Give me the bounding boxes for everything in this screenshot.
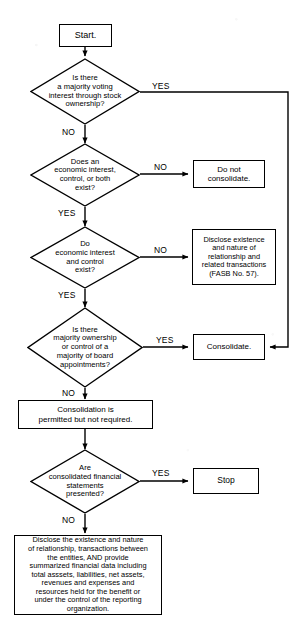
edge-label-d2-yes: YES	[58, 208, 76, 218]
edge-label-d1-yes: YES	[152, 81, 170, 91]
node-do-not-consolidate-label: Do notconsolidate.	[206, 165, 253, 184]
edge-d1-yes-to-consolidate	[140, 92, 288, 347]
node-do-not-consolidate: Do notconsolidate.	[193, 160, 265, 188]
node-consolidation-permitted: Consolidation ispermitted but not requir…	[18, 400, 153, 429]
node-stop-label: Stop	[215, 476, 237, 486]
node-start-label: Start.	[73, 30, 99, 40]
node-decision-consolidated-statements-presented: Areconsolidated financialstatementsprese…	[30, 449, 140, 514]
edge-label-d3-no: NO	[154, 245, 167, 255]
node-start: Start.	[59, 24, 112, 47]
node-consolidation-permitted-label: Consolidation ispermitted but not requir…	[37, 405, 135, 424]
edge-label-d2-no: NO	[154, 162, 167, 172]
edge-label-d3-yes: YES	[58, 290, 76, 300]
node-disclose-fasb: Disclose existenceand nature ofrelations…	[192, 229, 276, 285]
node-d4-label: Is theremajority ownershipor control of …	[35, 326, 135, 370]
flowchart-page: Start. Is therea majority votinginterest…	[0, 0, 303, 643]
node-decision-interest-and-control: Doeconomic interestand controlexist?	[30, 226, 140, 289]
node-consolidate-label: Consolidate.	[205, 342, 253, 351]
edge-label-d1-no: NO	[62, 127, 75, 137]
node-stop: Stop	[193, 468, 259, 494]
edge-label-d4-no: NO	[62, 388, 75, 398]
node-disclose-fasb-label: Disclose existenceand nature ofrelations…	[200, 236, 269, 279]
node-d5-label: Areconsolidated financialstatementsprese…	[38, 464, 133, 499]
node-d3-label: Doeconomic interestand controlexist?	[38, 240, 133, 275]
node-d1-label: Is therea majority votinginterest throug…	[38, 74, 133, 109]
edge-label-d5-no: NO	[62, 515, 75, 525]
node-decision-economic-interest-control: Does aneconomic interest,control, or bot…	[30, 143, 140, 207]
edge-label-d4-yes: YES	[156, 335, 174, 345]
node-disclose-full: Disclose the existence and natureof rela…	[14, 535, 162, 615]
node-d2-label: Does aneconomic interest,control, or bot…	[38, 158, 133, 193]
node-decision-majority-ownership-board: Is theremajority ownershipor control of …	[27, 307, 143, 388]
edge-label-d5-yes: YES	[152, 468, 170, 478]
node-consolidate: Consolidate.	[193, 334, 265, 360]
node-decision-majority-voting-interest: Is therea majority votinginterest throug…	[30, 58, 140, 125]
node-disclose-full-label: Disclose the existence and natureof rela…	[26, 536, 150, 613]
